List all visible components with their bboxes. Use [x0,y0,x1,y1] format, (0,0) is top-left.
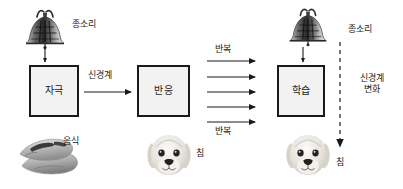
repetition-arrow-group [207,61,255,122]
puppy-icon [283,129,333,181]
nervous-change-line1: 신경계 [360,73,384,83]
node-learning: 학습 [277,65,325,117]
saliva-left-label: 침 [196,148,204,159]
conditioning-diagram: 종소리 [0,0,403,189]
node-response-label: 반응 [154,86,173,96]
bell-left-label: 종소리 [72,19,96,30]
edge-label-repetition-bottom: 반복 [215,126,231,137]
sausage-food-icon [14,126,86,178]
bell-icon [286,6,330,48]
nervous-change-line2: 변화 [364,84,380,94]
food-label: 음식 [63,136,79,147]
node-response: 반응 [137,65,190,117]
edge-label-nervous-system-change: 신경계 변화 [352,73,392,96]
node-stimulus-label: 자극 [45,86,64,96]
saliva-right-label: 침 [336,157,344,168]
puppy-icon [144,129,194,181]
edge-label-repetition-top: 반복 [215,44,231,55]
node-stimulus: 자극 [29,65,79,117]
edge-label-nervous-system: 신경계 [88,70,112,81]
node-learning-label: 학습 [292,86,311,96]
bell-right-label: 종소리 [348,24,372,35]
bell-icon [22,8,68,50]
